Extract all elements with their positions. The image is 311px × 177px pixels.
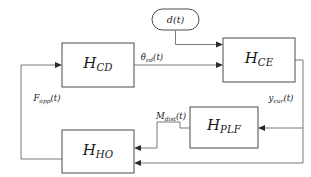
arrowhead-hcd-to-hce [216,62,223,68]
arrowhead-mdist-to-hho [134,145,141,151]
signal-label-theta-cd: θcd(t) [141,53,163,62]
block-label-h-ce: HCE [245,51,274,68]
wire-hce-output-rail [295,60,303,128]
arrowhead-ycur-to-hho [134,160,141,166]
arrowhead-fapp-to-hcd [55,62,62,68]
block-label-h-plf: HPLF [207,118,241,135]
arrowhead-ycur-to-hplf [258,125,265,131]
block-label-h-cd: HCD [83,56,112,73]
signal-label-f-app: Fapp(t) [33,94,60,103]
diagram-vector-layer [0,0,311,177]
block-diagram-canvas: HCD HCE HPLF HHO d(t) θcd(t) Fapp(t) ycu… [0,0,311,177]
node-label-disturbance: d(t) [167,15,184,25]
wire-fapp-to-hcd [21,65,62,159]
signal-label-y-cur: ycur(t) [269,94,294,103]
signal-label-m-dist: Mdist(t) [156,112,186,121]
arrowhead-d-to-hce [216,42,223,48]
block-label-h-ho: HHO [83,143,114,160]
wire-mdist-to-hho [139,122,190,148]
wire-d-to-hce [176,31,219,45]
